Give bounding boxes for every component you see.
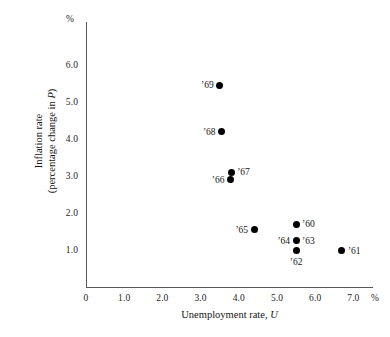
data-point xyxy=(228,169,235,176)
data-point-label: ’65 xyxy=(235,225,248,235)
x-axis-title: Unemployment rate, U xyxy=(86,309,373,320)
x-tick-7.0: 7.0 xyxy=(333,293,373,304)
x-tick-0: 0 xyxy=(66,293,106,304)
x-tick-1.0: 1.0 xyxy=(104,293,144,304)
x-axis-line xyxy=(86,287,373,288)
x-tick-2.0: 2.0 xyxy=(142,293,182,304)
data-point-label: ’62 xyxy=(290,257,303,267)
data-point-label: ’64 xyxy=(277,236,290,246)
data-point-label: ’61 xyxy=(348,246,361,256)
data-point xyxy=(251,226,258,233)
data-point-label: ’60 xyxy=(302,219,315,229)
x-tick-4.0: 4.0 xyxy=(219,293,259,304)
data-point-label: ’63 xyxy=(302,236,315,246)
data-point-label: ’68 xyxy=(203,127,216,137)
y-axis-title-line2: (percentage change in P) xyxy=(45,16,58,266)
data-point xyxy=(227,176,234,183)
x-axis-title-variable: U xyxy=(270,309,278,320)
data-point xyxy=(338,247,345,254)
x-tick-5.0: 5.0 xyxy=(257,293,297,304)
data-point-label: ’67 xyxy=(237,167,250,177)
x-tick-6.0: 6.0 xyxy=(295,293,335,304)
data-point-label: ’66 xyxy=(212,175,225,185)
phillips-curve-scatter-chart: % % 1.02.03.04.05.06.0 01.02.03.04.05.06… xyxy=(0,0,390,337)
x-axis-title-text: Unemployment rate, xyxy=(181,309,270,320)
y-axis-title-line2-pre: (percentage change in xyxy=(46,99,57,194)
data-point xyxy=(293,237,300,244)
y-axis-title-variable: P xyxy=(46,92,57,98)
y-axis-title-line2-post: ) xyxy=(46,89,57,93)
data-point-label: ’69 xyxy=(201,80,214,90)
data-point xyxy=(218,128,225,135)
y-axis-title: Inflation rate (percentage change in P) xyxy=(32,16,58,266)
y-axis-line xyxy=(86,22,87,288)
x-tick-3.0: 3.0 xyxy=(181,293,221,304)
data-point xyxy=(293,247,300,254)
data-point xyxy=(293,221,300,228)
data-point xyxy=(216,82,223,89)
y-axis-title-line1: Inflation rate xyxy=(32,16,45,266)
y-axis-unit-percent: % xyxy=(66,14,74,24)
